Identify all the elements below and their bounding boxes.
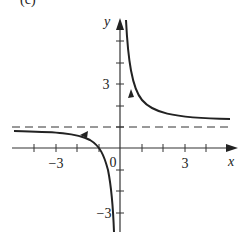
x-axis-arrow-icon (226, 144, 238, 152)
y-tick-label: 3 (103, 77, 110, 92)
origin-label: 0 (110, 155, 117, 170)
right-branch-curve (126, 20, 230, 119)
y-axis-label: y (102, 14, 111, 29)
x-tick-label: −3 (49, 156, 64, 171)
y-axis-arrow-icon (116, 18, 124, 30)
svg-text:(c): (c) (20, 0, 36, 8)
x-axis-label: x (227, 154, 235, 169)
right-branch-arrow-icon (128, 89, 134, 98)
graph: (c) −3 0 3 3 −3 x y (0, 0, 239, 237)
panel-label: (c) (20, 0, 36, 8)
x-tick-label: 3 (182, 156, 189, 171)
y-tick-label: −3 (97, 206, 112, 221)
